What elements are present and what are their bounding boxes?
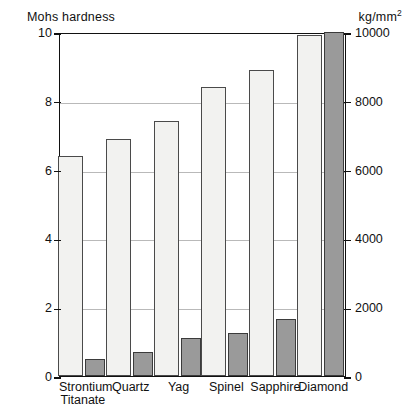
axis-tick-right — [344, 102, 351, 103]
axis-tick-right — [344, 240, 351, 241]
bar-mohs — [154, 121, 179, 376]
axis-tick-left — [54, 309, 61, 310]
category-label: Spinel — [203, 381, 251, 394]
right-tick-label: 2000 — [355, 302, 383, 315]
category-label-line1: Sapphire — [250, 380, 300, 394]
bar-kgmm2 — [276, 319, 296, 376]
category-label: Diamond — [298, 381, 346, 394]
right-tick-label: 0 — [355, 371, 362, 384]
category-label-line1: Spinel — [209, 380, 244, 394]
plot-inner — [60, 34, 345, 376]
axis-tick-left — [54, 33, 61, 34]
category-label: Sapphire — [250, 381, 298, 394]
right-tick-label: 10000 — [355, 27, 390, 40]
right-tick-label: 8000 — [355, 96, 383, 109]
category-label-line1: Yag — [168, 380, 189, 394]
bar-mohs — [58, 156, 83, 376]
bar-kgmm2 — [324, 32, 344, 376]
category-label: Quartz — [107, 381, 155, 394]
bar-mohs — [297, 35, 322, 376]
left-tick-label: 4 — [0, 233, 52, 246]
right-axis-title-exponent: 2 — [397, 8, 402, 18]
bar-mohs — [106, 139, 131, 376]
bar-kgmm2 — [181, 338, 201, 376]
left-axis-title: Mohs hardness — [27, 10, 115, 24]
category-label: StrontiumTitanate — [59, 381, 107, 407]
bar-mohs — [249, 70, 274, 376]
axis-tick-left — [54, 377, 61, 378]
left-tick-label: 10 — [0, 27, 52, 40]
axis-tick-right — [344, 377, 351, 378]
right-tick-label: 4000 — [355, 233, 383, 246]
category-label-line1: Strontium — [59, 380, 113, 394]
plot-area — [59, 33, 346, 377]
bar-kgmm2 — [228, 333, 248, 376]
axis-tick-left — [54, 240, 61, 241]
right-axis-title: kg/mm2 — [359, 8, 402, 24]
right-axis-title-text: kg/mm — [359, 10, 398, 24]
bar-kgmm2 — [85, 359, 105, 376]
axis-tick-right — [344, 33, 351, 34]
category-label-line1: Diamond — [298, 380, 348, 394]
category-label-line2: Titanate — [59, 394, 107, 407]
axis-tick-left — [54, 102, 61, 103]
left-tick-label: 8 — [0, 96, 52, 109]
axis-tick-right — [344, 309, 351, 310]
axis-tick-right — [344, 171, 351, 172]
left-tick-label: 2 — [0, 302, 52, 315]
right-tick-label: 6000 — [355, 165, 383, 178]
hardness-bar-chart: Mohs hardness kg/mm2 0022000440006600088… — [0, 0, 406, 413]
bar-mohs — [201, 87, 226, 376]
category-label-line1: Quartz — [112, 380, 150, 394]
bar-kgmm2 — [133, 352, 153, 376]
left-tick-label: 0 — [0, 371, 52, 384]
category-label: Yag — [155, 381, 203, 394]
left-tick-label: 6 — [0, 165, 52, 178]
axis-tick-left — [54, 171, 61, 172]
